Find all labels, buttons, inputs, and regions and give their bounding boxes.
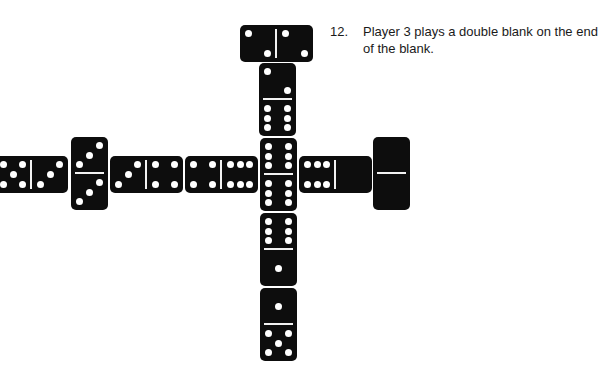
pip-icon bbox=[275, 303, 282, 310]
pip-icon bbox=[76, 161, 83, 168]
domino-divider bbox=[75, 172, 104, 174]
domino-half-5 bbox=[0, 156, 31, 193]
domino-half-6 bbox=[260, 138, 297, 174]
pip-icon bbox=[245, 30, 252, 37]
pip-icon bbox=[275, 340, 282, 347]
pip-icon bbox=[314, 161, 321, 168]
domino-half-4 bbox=[185, 156, 221, 193]
domino-divider bbox=[377, 172, 406, 174]
pip-icon bbox=[265, 330, 272, 337]
pip-icon bbox=[284, 124, 291, 131]
pip-icon bbox=[285, 218, 292, 225]
pip-icon bbox=[265, 218, 272, 225]
pip-icon bbox=[134, 161, 141, 168]
pip-icon bbox=[304, 181, 311, 188]
domino-top-double-2 bbox=[240, 25, 313, 62]
domino-half-3 bbox=[71, 174, 108, 210]
pip-icon bbox=[56, 161, 63, 168]
pip-icon bbox=[285, 162, 292, 169]
domino-divider bbox=[264, 323, 293, 325]
pip-icon bbox=[19, 161, 26, 168]
pip-icon bbox=[285, 153, 292, 160]
domino-half-2 bbox=[277, 25, 313, 62]
domino-divider bbox=[264, 173, 293, 175]
pip-icon bbox=[96, 179, 103, 186]
pip-icon bbox=[237, 161, 244, 168]
pip-icon bbox=[86, 189, 93, 196]
pip-icon bbox=[323, 181, 330, 188]
domino-divider bbox=[334, 160, 336, 189]
pip-icon bbox=[284, 105, 291, 112]
pip-icon bbox=[47, 171, 54, 178]
pip-icon bbox=[285, 349, 292, 356]
domino-half-6 bbox=[259, 100, 296, 136]
pip-icon bbox=[171, 161, 178, 168]
domino-half-3 bbox=[110, 156, 146, 193]
domino-half-6 bbox=[260, 175, 297, 211]
pip-icon bbox=[265, 349, 272, 356]
domino-horizontal-6-0 bbox=[299, 156, 372, 193]
pip-icon bbox=[10, 171, 17, 178]
pip-icon bbox=[275, 265, 282, 272]
domino-divider bbox=[145, 160, 147, 189]
pip-icon bbox=[284, 115, 291, 122]
domino-divider bbox=[220, 160, 222, 189]
pip-icon bbox=[152, 181, 159, 188]
pip-icon bbox=[301, 50, 308, 57]
pip-icon bbox=[285, 190, 292, 197]
domino-divider bbox=[263, 98, 292, 100]
pip-icon bbox=[265, 190, 272, 197]
pip-icon bbox=[227, 181, 234, 188]
step-description: Player 3 plays a double blank on the end… bbox=[363, 23, 602, 57]
pip-icon bbox=[282, 30, 289, 37]
domino-half-6 bbox=[222, 156, 258, 193]
domino-half-3 bbox=[32, 156, 68, 193]
domino-vertical-6-1 bbox=[260, 213, 297, 286]
pip-icon bbox=[246, 161, 253, 168]
domino-divider bbox=[275, 29, 277, 58]
pip-icon bbox=[285, 237, 292, 244]
domino-half-6 bbox=[260, 213, 297, 249]
pip-icon bbox=[265, 180, 272, 187]
pip-icon bbox=[190, 181, 197, 188]
pip-icon bbox=[285, 180, 292, 187]
pip-icon bbox=[264, 124, 271, 131]
domino-divider bbox=[264, 248, 293, 250]
domino-left-5-3 bbox=[0, 156, 68, 193]
pip-icon bbox=[171, 181, 178, 188]
pip-icon bbox=[314, 181, 321, 188]
domino-half-0 bbox=[373, 137, 410, 173]
pip-icon bbox=[264, 50, 271, 57]
pip-icon bbox=[264, 115, 271, 122]
domino-center-double-6 bbox=[260, 138, 297, 211]
pip-icon bbox=[190, 161, 197, 168]
domino-half-5 bbox=[260, 325, 297, 361]
domino-half-0 bbox=[336, 156, 372, 193]
pip-icon bbox=[86, 152, 93, 159]
domino-half-6 bbox=[299, 156, 335, 193]
pip-icon bbox=[76, 198, 83, 205]
pip-icon bbox=[125, 171, 132, 178]
pip-icon bbox=[265, 143, 272, 150]
pip-icon bbox=[209, 161, 216, 168]
pip-icon bbox=[37, 181, 44, 188]
step-number: 12. bbox=[330, 23, 348, 40]
pip-icon bbox=[264, 68, 271, 75]
pip-icon bbox=[265, 237, 272, 244]
pip-icon bbox=[152, 161, 159, 168]
pip-icon bbox=[285, 330, 292, 337]
pip-icon bbox=[227, 161, 234, 168]
pip-icon bbox=[284, 87, 291, 94]
domino-half-4 bbox=[147, 156, 183, 193]
domino-half-2 bbox=[259, 63, 296, 99]
domino-half-1 bbox=[260, 288, 297, 324]
pip-icon bbox=[209, 181, 216, 188]
domino-half-2 bbox=[240, 25, 276, 62]
pip-icon bbox=[265, 162, 272, 169]
pip-icon bbox=[237, 181, 244, 188]
pip-icon bbox=[323, 161, 330, 168]
domino-half-1 bbox=[260, 250, 297, 286]
pip-icon bbox=[115, 181, 122, 188]
pip-icon bbox=[265, 228, 272, 235]
pip-icon bbox=[265, 153, 272, 160]
